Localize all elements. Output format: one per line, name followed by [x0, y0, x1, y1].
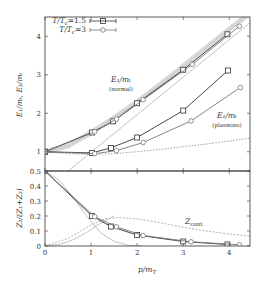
data-point-circle: [238, 85, 243, 90]
data-point-circle: [114, 225, 119, 230]
lower-plot-area: [43, 169, 251, 248]
x-axis-label: p/mT: [138, 265, 156, 275]
data-point-square: [108, 145, 113, 150]
x-tick-label: 0: [43, 249, 47, 257]
data-point-circle: [114, 148, 119, 153]
y-tick-label: 0.2: [30, 213, 41, 221]
data-point-square: [225, 68, 230, 73]
y-tick-label: 3: [37, 71, 41, 79]
e2-annotation: E₂/mₜ: [216, 111, 237, 120]
y-tick-label: 1: [37, 148, 41, 156]
data-point-circle: [189, 119, 194, 124]
legend-sample-square: [90, 19, 116, 24]
upper-y-axis-label: E₁/mₜ, E₂/mₜ: [15, 73, 24, 119]
labels: E₁/mₜ, E₂/mₜ Z₂/(Z₁+Z₂) p/mT T/Tc=1.5 T/…: [15, 16, 242, 275]
data-point-square: [181, 108, 186, 113]
x-tick-label: 3: [181, 249, 185, 257]
legend-label-2: T/Tc=3: [59, 25, 86, 35]
lower-y-axis-label: Z₂/(Z₁+Z₂): [15, 188, 24, 228]
x-tick-label: 2: [135, 249, 139, 257]
data-point-circle: [92, 151, 97, 156]
theory-curve: [68, 23, 250, 171]
y-tick-label: 0.4: [30, 183, 42, 191]
data-point-circle: [92, 129, 97, 134]
e2-plasmino-annotation: (plasmino): [212, 122, 242, 129]
data-point-circle: [189, 240, 194, 245]
e1-normal-annotation: (normal): [109, 86, 133, 92]
e1-annotation: E₁/mₜ: [110, 75, 131, 84]
data-point-circle: [237, 24, 242, 29]
data-point-circle: [141, 233, 146, 238]
data-point-square: [135, 135, 140, 140]
lower-panel: 0123400.10.20.30.40.5: [30, 168, 250, 258]
data-point-circle: [114, 117, 119, 122]
theory-curve: [45, 171, 142, 246]
chart-container: 1234 0123400.10.20.30.40.5 E₁/mₜ, E₂/mₜ …: [0, 0, 263, 282]
x-tick-label: 4: [227, 249, 232, 257]
data-point-circle: [237, 243, 242, 248]
data-point-circle: [141, 97, 146, 102]
y-tick-label: 4: [37, 33, 42, 41]
data-point-circle: [92, 214, 97, 219]
data-point-circle: [141, 140, 146, 145]
data-point-circle: [190, 62, 195, 67]
y-tick-label: 0: [37, 243, 41, 251]
x-tick-label: 1: [89, 249, 93, 257]
zcont-annotation: Zcont.: [184, 217, 204, 227]
y-tick-label: 0.3: [30, 198, 41, 206]
y-tick-label: 0.5: [30, 168, 41, 176]
zcont-curve: [45, 218, 250, 247]
upper-panel: 1234: [37, 13, 250, 171]
legend-sample-circle: [90, 28, 116, 33]
y-tick-label: 2: [37, 110, 41, 118]
y-tick-label: 0.1: [30, 228, 41, 236]
upper-plot-area: [43, 13, 251, 171]
lower-frame: [45, 171, 250, 246]
